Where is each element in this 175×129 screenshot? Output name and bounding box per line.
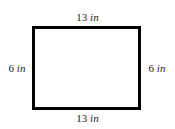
dimension-label-right-unit: in	[157, 62, 166, 74]
dimension-label-left: 6 in	[4, 62, 30, 75]
dimension-label-bottom-value: 13	[76, 112, 87, 124]
rectangle-diagram: 13 in 6 in 6 in 13 in	[0, 0, 175, 129]
dimension-label-right: 6 in	[144, 62, 170, 75]
dimension-label-bottom: 13 in	[0, 112, 175, 125]
dimension-label-bottom-unit: in	[90, 112, 99, 124]
dimension-label-top-value: 13	[76, 11, 87, 23]
dimension-label-top: 13 in	[0, 11, 175, 24]
dimension-label-top-unit: in	[90, 11, 99, 23]
rectangle-outline	[32, 26, 141, 110]
dimension-label-left-unit: in	[17, 62, 26, 74]
